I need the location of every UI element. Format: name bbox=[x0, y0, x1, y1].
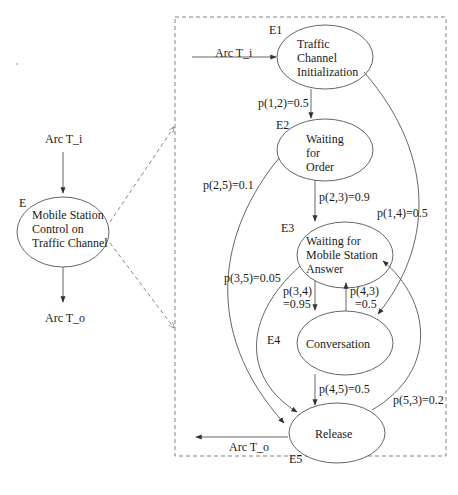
label-p12: p(1,2)=0.5 bbox=[258, 96, 309, 110]
node-E-line-2: Control on bbox=[32, 222, 84, 236]
label-p25: p(2,5)=0.1 bbox=[203, 178, 254, 192]
detail-model: Arc T_i E1 Traffic Channel Initializatio… bbox=[192, 23, 444, 466]
label-p35: p(3,5)=0.05 bbox=[224, 271, 281, 285]
node-E5-line-1: Release bbox=[315, 427, 352, 441]
label-p34-a: p(3,4) bbox=[283, 284, 312, 298]
label-p34-b: =0.95 bbox=[283, 297, 311, 311]
node-E1-line-3: Initialization bbox=[297, 65, 358, 79]
node-E5-id: E5 bbox=[289, 452, 302, 466]
zoom-line-top bbox=[110, 127, 174, 222]
label-p53: p(5,3)=0.2 bbox=[393, 393, 444, 407]
node-E3-line-1: Waiting for bbox=[306, 234, 361, 248]
detail-input-arc-label: Arc T_i bbox=[215, 46, 253, 60]
node-E4-line-1: Conversation bbox=[306, 337, 370, 351]
node-E-line-3: Traffic Channel bbox=[32, 236, 108, 250]
label-p43-b: =0.5 bbox=[355, 297, 377, 311]
node-E2-line-1: Waiting bbox=[306, 132, 344, 146]
node-E2-line-2: for bbox=[306, 146, 320, 160]
node-E1-line-2: Channel bbox=[297, 51, 338, 65]
label-p23: p(2,3)=0.9 bbox=[319, 190, 370, 204]
label-p14: p(1,4)=0.5 bbox=[377, 206, 428, 220]
node-E3-line-3: Answer bbox=[306, 262, 343, 276]
label-p45: p(4,5)=0.5 bbox=[319, 382, 370, 396]
left-model: Arc T_i E Mobile Station Control on Traf… bbox=[17, 132, 109, 325]
node-E-id: E bbox=[19, 196, 26, 210]
edge-e2-e5 bbox=[228, 158, 284, 423]
label-p43-a: p(4,3) bbox=[350, 284, 379, 298]
zoom-line-bottom bbox=[110, 243, 174, 328]
node-E2-id: E2 bbox=[276, 118, 289, 132]
node-E3-line-2: Mobile Station bbox=[306, 248, 378, 262]
node-E2-line-3: Order bbox=[306, 160, 334, 174]
stray-dot bbox=[16, 63, 18, 65]
left-output-arc-label: Arc T_o bbox=[45, 311, 85, 325]
node-E1-line-1: Traffic bbox=[297, 37, 330, 51]
node-E1-id: E1 bbox=[269, 23, 282, 37]
detail-output-arc-label: Arc T_o bbox=[229, 440, 269, 454]
node-E4-id: E4 bbox=[267, 333, 280, 347]
node-E-line-1: Mobile Station bbox=[32, 208, 104, 222]
node-E3-id: E3 bbox=[281, 221, 294, 235]
state-diagram: Arc T_i E Mobile Station Control on Traf… bbox=[0, 0, 458, 495]
left-input-arc-label: Arc T_i bbox=[45, 132, 83, 146]
